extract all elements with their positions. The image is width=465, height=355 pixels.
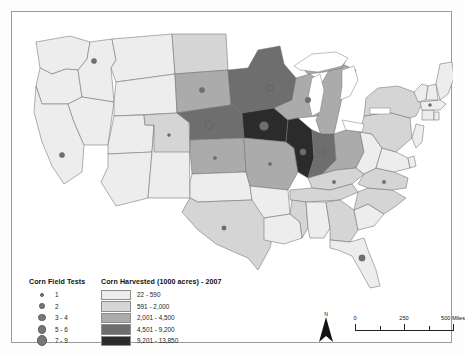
legend-dot-column: 1 2 3 - 4 — [29, 289, 101, 347]
state-connecticut — [422, 110, 434, 120]
legend-color-swatch — [101, 336, 131, 347]
field-test-point-california — [59, 152, 64, 157]
map-frame: .st{stroke:#6f6f6f;stroke-width:.55;stro… — [11, 11, 452, 343]
scale-tick — [404, 324, 405, 331]
field-test-point-florida — [359, 255, 365, 261]
field-test-point-virginia — [382, 180, 386, 184]
scale-tick — [380, 326, 381, 331]
field-test-point-indiana — [322, 150, 326, 154]
legend-class-label: 9,201 - 13,850 — [137, 335, 178, 347]
state-kansas — [190, 138, 246, 174]
state-maine — [436, 62, 453, 100]
state-oklahoma — [190, 172, 252, 202]
state-newjersey — [412, 124, 424, 148]
field-test-point-colorado — [168, 134, 171, 137]
legend-dot-swatch — [29, 303, 55, 309]
legend-titles: Corn Field Tests Corn Harvested (1000 ac… — [29, 277, 222, 287]
field-test-point-massachusetts — [429, 104, 432, 107]
legend-class-item[interactable]: 22 - 590 — [101, 289, 178, 301]
legend-dot-swatch — [29, 293, 55, 297]
state-florida — [330, 238, 380, 288]
field-test-point-kansas — [213, 156, 216, 159]
north-arrow-icon — [315, 317, 337, 343]
field-test-point-nebraska — [205, 121, 213, 129]
field-test-point-kentucky — [332, 180, 335, 183]
field-test-point-idaho — [91, 58, 96, 63]
state-alabama — [306, 202, 330, 238]
state-maryland — [376, 148, 410, 172]
scale-bar-graphic — [355, 324, 455, 332]
legend-class-label: 4,501 - 9,200 — [137, 324, 175, 336]
scale-bar: 0 250 500 Miles — [355, 315, 455, 332]
lake-huron — [340, 66, 358, 100]
scale-label-250: 250 — [399, 315, 408, 321]
scale-tick — [355, 324, 356, 331]
legend-dot-label: 7 - 9 — [55, 335, 68, 347]
legend-dot-label: 2 — [55, 301, 59, 313]
scale-label-0: 0 — [353, 315, 356, 321]
legend-class-label: 2,001 - 4,500 — [137, 312, 175, 324]
legend-dot-label: 3 - 4 — [55, 312, 68, 324]
legend-color-swatch — [101, 301, 131, 312]
north-arrow: N — [315, 311, 337, 347]
state-massachusetts — [420, 100, 446, 110]
state-polygons — [34, 34, 453, 288]
legend-class-label: 591 - 2,000 — [137, 301, 169, 313]
legend-title-field-tests: Corn Field Tests — [29, 277, 101, 287]
map-legend: Corn Field Tests Corn Harvested (1000 ac… — [29, 277, 222, 347]
legend-dot-label: 1 — [55, 289, 59, 301]
scale-tick — [453, 324, 454, 331]
field-test-point-southdakota — [199, 87, 204, 92]
field-test-point-illinois — [300, 149, 306, 155]
field-test-point-minnesota — [267, 85, 273, 91]
state-northdakota — [172, 34, 228, 74]
legend-title-corn-harvested: Corn Harvested (1000 acres) - 2007 — [101, 277, 222, 287]
legend-color-swatch — [101, 324, 131, 335]
legend-dot-item[interactable]: 1 — [29, 289, 101, 301]
field-test-point-texas — [222, 226, 226, 230]
scale-bar-labels: 0 250 500 Miles — [355, 315, 455, 323]
lake-ontario — [370, 108, 390, 114]
legend-columns: 1 2 3 - 4 — [29, 289, 222, 347]
legend-dot-swatch — [29, 314, 55, 321]
state-rhodeisland — [434, 112, 439, 120]
legend-class-label: 22 - 590 — [137, 289, 160, 301]
legend-class-item[interactable]: 591 - 2,000 — [101, 301, 178, 313]
state-oregon — [36, 68, 82, 104]
state-georgia — [326, 200, 358, 242]
field-test-point-missouri — [268, 162, 271, 165]
scale-label-500: 500 Miles — [441, 315, 465, 321]
state-arizona — [101, 152, 152, 206]
legend-dot-swatch — [29, 325, 55, 334]
field-test-point-wisconsin — [305, 97, 311, 103]
legend-dot-item[interactable]: 3 - 4 — [29, 312, 101, 324]
scale-tick — [429, 326, 430, 331]
legend-class-item[interactable]: 2,001 - 4,500 — [101, 312, 178, 324]
legend-class-item[interactable]: 9,201 - 13,850 — [101, 335, 178, 347]
legend-dot-swatch — [29, 335, 55, 346]
legend-color-swatch — [101, 313, 131, 324]
legend-color-swatch — [101, 290, 131, 301]
state-newhampshire — [426, 84, 438, 100]
legend-dot-item[interactable]: 7 - 9 — [29, 335, 101, 347]
legend-dot-item[interactable]: 5 - 6 — [29, 324, 101, 336]
state-montana — [111, 34, 175, 82]
legend-class-item[interactable]: 4,501 - 9,200 — [101, 324, 178, 336]
legend-dot-item[interactable]: 2 — [29, 301, 101, 313]
legend-dot-label: 5 - 6 — [55, 324, 68, 336]
field-test-point-iowa — [259, 121, 268, 130]
legend-swatch-column: 22 - 590 591 - 2,000 2,001 - 4,500 4,501… — [101, 289, 178, 347]
